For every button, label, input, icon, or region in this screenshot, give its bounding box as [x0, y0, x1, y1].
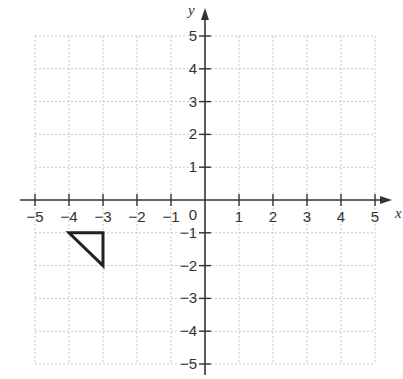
coordinate-grid: xy−5−4−3−2−11234554321−1−2−3−4−50 — [0, 0, 403, 379]
y-tick-label: −5 — [180, 355, 197, 372]
x-tick-label: 5 — [371, 208, 379, 225]
x-tick-label: −4 — [60, 208, 77, 225]
x-axis-arrow-icon — [380, 196, 392, 204]
origin-label: 0 — [189, 206, 197, 223]
y-axis-label: y — [186, 2, 195, 18]
y-tick-label: 2 — [189, 125, 197, 142]
x-tick-label: −5 — [26, 208, 43, 225]
y-tick-label: −4 — [180, 322, 197, 339]
x-tick-label: 3 — [303, 208, 311, 225]
triangle-shape — [69, 233, 103, 266]
x-axis-label: x — [394, 205, 402, 221]
y-tick-label: −2 — [180, 257, 197, 274]
y-tick-label: 4 — [189, 60, 197, 77]
y-tick-label: 5 — [189, 27, 197, 44]
y-axis-arrow-icon — [201, 8, 209, 20]
x-tick-label: −1 — [162, 208, 179, 225]
y-tick-label: −1 — [180, 224, 197, 241]
x-tick-label: 4 — [337, 208, 345, 225]
y-tick-label: 3 — [189, 93, 197, 110]
x-tick-label: −3 — [94, 208, 111, 225]
x-tick-label: −2 — [128, 208, 145, 225]
x-tick-label: 2 — [269, 208, 277, 225]
x-tick-label: 1 — [235, 208, 243, 225]
y-tick-label: 1 — [189, 158, 197, 175]
y-tick-label: −3 — [180, 289, 197, 306]
